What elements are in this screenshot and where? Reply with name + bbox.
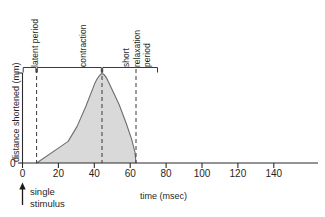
phase-label-line-short: short [121, 30, 132, 67]
phase-label-latent-period: latent period [31, 19, 41, 67]
stimulus-label-line-2: stimulus [30, 198, 65, 210]
stimulus-label-line-1: single [30, 186, 65, 198]
x-axis-tick-label-100: 100 [191, 168, 213, 179]
bracket-latent-period [23, 68, 36, 73]
x-axis-tick-label-140: 140 [263, 168, 285, 179]
single-stimulus-label: single stimulus [30, 186, 65, 209]
y-axis-title: distance shortened (mm) [11, 62, 21, 162]
x-axis-tick-label-80: 80 [155, 168, 177, 179]
x-axis-tick-label-20: 20 [47, 168, 69, 179]
x-axis-tick-label-0: 0 [12, 168, 34, 179]
x-axis-tick-label-40: 40 [83, 168, 105, 179]
bracket-contraction [37, 68, 101, 73]
phase-brackets [23, 68, 157, 73]
twitch-area-fill [37, 74, 136, 163]
chart-canvas [0, 0, 325, 217]
phase-label-line-period: period [142, 30, 153, 67]
x-axis-tick-label-120: 120 [227, 168, 249, 179]
x-axis-tick-label-60: 60 [119, 168, 141, 179]
phase-label-contraction: contraction [79, 24, 89, 67]
phase-label-line-relaxation: relaxation [132, 30, 143, 67]
x-axis-title: time (msec) [140, 191, 187, 201]
single-stimulus-arrow [19, 183, 25, 206]
muscle-twitch-chart: latent period contraction short relaxati… [0, 0, 325, 217]
bracket-short-relaxation [103, 68, 158, 73]
phase-label-short-relaxation-period: short relaxation period [121, 30, 153, 67]
